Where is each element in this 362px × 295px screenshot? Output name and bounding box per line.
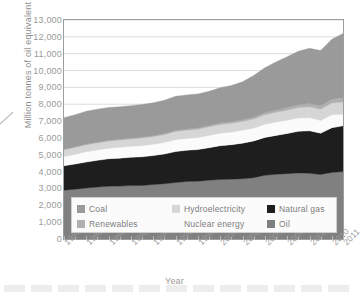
x-tick-mark-minor xyxy=(187,237,188,240)
page-edge-smudge xyxy=(0,285,349,295)
legend-item-label: Hydroelectricity xyxy=(184,204,245,214)
chart-legend: CoalHydroelectricityNatural gasRenewable… xyxy=(71,197,337,233)
y-tick-label: 11,000 xyxy=(10,49,62,59)
x-tick-mark-minor xyxy=(120,237,121,240)
legend-item-natural-gas[interactable]: Natural gas xyxy=(267,204,331,214)
legend-item-coal[interactable]: Coal xyxy=(77,204,172,214)
legend-item-label: Coal xyxy=(89,204,107,214)
x-tick-mark-minor xyxy=(276,237,277,240)
legend-item-oil[interactable]: Oil xyxy=(267,219,331,229)
legend-swatch-icon xyxy=(172,220,180,228)
x-axis-tick-labels: 1986198819901992199419961998200020022004… xyxy=(0,240,349,280)
x-tick-mark-minor xyxy=(231,237,232,240)
x-tick-mark-minor xyxy=(97,237,98,240)
legend-swatch-icon xyxy=(77,220,85,228)
y-tick-label: 12,000 xyxy=(10,32,62,42)
y-tick-label: 8,000 xyxy=(10,99,62,109)
x-tick-mark-minor xyxy=(209,237,210,240)
y-tick-label: 2,000 xyxy=(10,200,62,210)
y-tick-label: 1,000 xyxy=(10,217,62,227)
legend-item-hydroelectricity[interactable]: Hydroelectricity xyxy=(172,204,267,214)
x-tick-mark-minor xyxy=(254,237,255,240)
legend-item-label: Renewables xyxy=(89,219,138,229)
x-tick-mark-minor xyxy=(75,237,76,240)
y-tick-label: 7,000 xyxy=(10,116,62,126)
x-tick-mark-minor xyxy=(142,237,143,240)
y-tick-label: 5,000 xyxy=(10,150,62,160)
y-tick-label: 13,000 xyxy=(10,15,62,25)
y-tick-label: 9,000 xyxy=(10,82,62,92)
legend-swatch-icon xyxy=(267,205,275,213)
legend-item-label: Nuclear energy xyxy=(184,219,244,229)
legend-swatch-icon xyxy=(267,220,275,228)
x-tick-mark-minor xyxy=(298,237,299,240)
legend-item-label: Natural gas xyxy=(279,204,325,214)
legend-item-label: Oil xyxy=(279,219,290,229)
x-tick-mark-minor xyxy=(164,237,165,240)
y-tick-label: 10,000 xyxy=(10,66,62,76)
x-tick-mark-minor xyxy=(321,237,322,240)
y-tick-label: 4,000 xyxy=(10,167,62,177)
y-tick-label: 3,000 xyxy=(10,183,62,193)
legend-item-nuclear-energy[interactable]: Nuclear energy xyxy=(172,219,267,229)
legend-swatch-icon xyxy=(172,205,180,213)
legend-item-renewables[interactable]: Renewables xyxy=(77,219,172,229)
y-tick-label: 6,000 xyxy=(10,133,62,143)
legend-swatch-icon xyxy=(77,205,85,213)
